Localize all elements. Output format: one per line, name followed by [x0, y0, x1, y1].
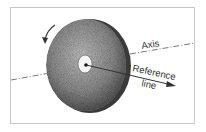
- axis-line-right: [130, 43, 195, 54]
- reference-line-label: line: [141, 77, 158, 91]
- rotation-arrowhead: [42, 37, 48, 44]
- axis-label: Axis: [141, 37, 161, 51]
- grinding-wheel-diagram: Axis Reference line: [0, 0, 206, 132]
- axis-line-left: [11, 73, 50, 80]
